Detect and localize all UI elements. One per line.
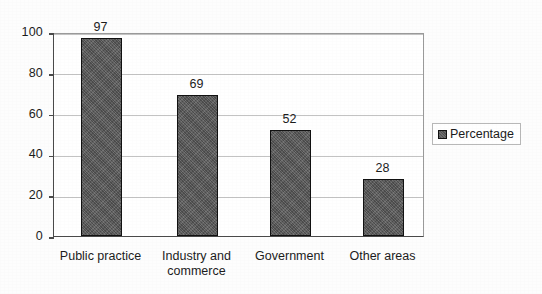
x-axis-category-label: Industry and commerce xyxy=(147,249,246,279)
y-tick-mark-100 xyxy=(49,33,54,35)
bar xyxy=(363,179,404,236)
bar xyxy=(270,130,311,236)
y-tick-mark-60 xyxy=(49,115,54,117)
chart-legend: Percentage xyxy=(432,123,521,145)
y-tick-mark-20 xyxy=(49,196,54,198)
y-axis-tick-label: 40 xyxy=(8,147,43,161)
x-axis-category-label: Other areas xyxy=(333,249,432,264)
x-axis-category-label: Government xyxy=(240,249,339,264)
y-axis-tick-label: 60 xyxy=(8,107,43,121)
y-axis-tick-label: 20 xyxy=(8,188,43,202)
bar xyxy=(81,38,122,236)
bar-value-label: 97 xyxy=(66,20,135,34)
bar xyxy=(177,95,218,236)
bar-chart: 02040608010097Public practice69Industry … xyxy=(0,0,542,294)
plot-area xyxy=(53,33,424,237)
bar-value-label: 69 xyxy=(162,77,231,91)
y-tick-mark-0 xyxy=(49,237,54,239)
y-axis-tick-label: 0 xyxy=(8,229,43,243)
legend-swatch-percentage xyxy=(438,130,447,139)
y-axis-tick-label: 100 xyxy=(8,25,43,39)
y-tick-mark-80 xyxy=(49,74,54,76)
legend-label-percentage: Percentage xyxy=(450,127,514,141)
bar-value-label: 28 xyxy=(348,161,417,175)
bar-value-label: 52 xyxy=(255,112,324,126)
x-axis-category-label: Public practice xyxy=(51,249,150,264)
y-axis-tick-label: 80 xyxy=(8,66,43,80)
y-tick-mark-40 xyxy=(49,156,54,158)
